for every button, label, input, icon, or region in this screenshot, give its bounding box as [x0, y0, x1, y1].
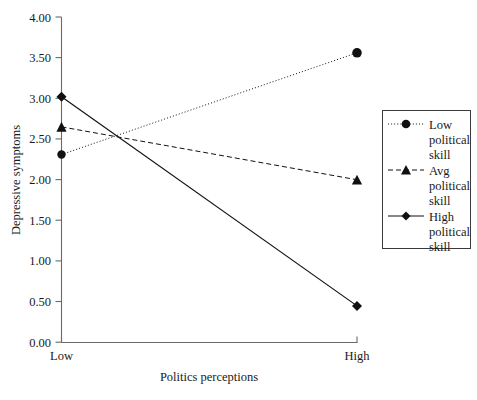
legend-label-avg-line2: political	[429, 179, 470, 193]
chart-figure: 4.00 3.50 3.00 2.50 2.00 1.50 1.00 0.50 …	[0, 0, 477, 400]
legend-swatch-circle-icon	[402, 120, 411, 129]
series-high-political-skill	[57, 92, 363, 311]
y-tick-label-2-00: 2.00	[29, 173, 51, 187]
y-tick-label-1-00: 1.00	[29, 254, 51, 268]
x-category-label-high: High	[345, 349, 371, 363]
series-high-line	[62, 97, 358, 306]
series-low-marker-circle-high	[352, 48, 362, 58]
series-low-line	[62, 53, 358, 155]
y-tick-label-2-50: 2.50	[29, 132, 51, 146]
series-avg-line	[62, 127, 358, 180]
series-high-marker-diamond-low	[57, 92, 67, 102]
series-avg-marker-triangle-high	[352, 175, 362, 185]
series-avg-marker-triangle-low	[56, 122, 66, 132]
legend-label-high-line3: skill	[429, 240, 451, 254]
legend-label-low-line1: Low	[429, 118, 452, 132]
legend-label-high-line1: High	[429, 210, 455, 224]
legend-label-avg-line3: skill	[429, 194, 451, 208]
series-high-marker-diamond-high	[352, 301, 362, 311]
y-tick-label-3-50: 3.50	[29, 51, 51, 65]
legend: Low political skill Avg political skill …	[383, 111, 471, 254]
series-low-political-skill	[57, 48, 362, 159]
legend-label-avg-line1: Avg	[429, 164, 450, 178]
y-tick-label-3-00: 3.00	[29, 92, 51, 106]
y-tick-label-4-00: 4.00	[29, 11, 51, 25]
legend-label-high-line2: political	[429, 225, 470, 239]
legend-label-low-line3: skill	[429, 148, 451, 162]
line-chart-canvas: 4.00 3.50 3.00 2.50 2.00 1.50 1.00 0.50 …	[0, 0, 477, 400]
series-low-marker-circle-low	[57, 150, 65, 158]
legend-label-low-line2: political	[429, 133, 470, 147]
y-axis-title: Depressive symptoms	[9, 125, 23, 235]
series-avg-political-skill	[56, 122, 362, 185]
x-category-label-low: Low	[50, 349, 73, 363]
x-axis-title: Politics perceptions	[160, 370, 258, 384]
y-tick-label-1-50: 1.50	[29, 214, 51, 228]
y-tick-label-0-00: 0.00	[29, 336, 51, 350]
y-tick-label-0-50: 0.50	[29, 295, 51, 309]
